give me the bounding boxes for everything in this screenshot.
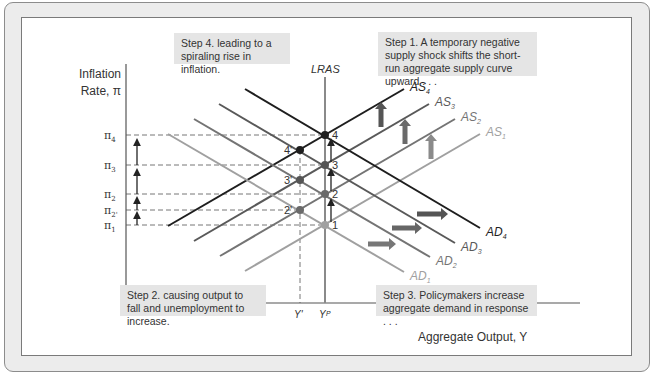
ad-label: AD1 bbox=[409, 269, 431, 284]
point-label: 2' bbox=[284, 204, 292, 216]
dashed-guide-lines bbox=[126, 135, 325, 303]
point-1 bbox=[321, 221, 329, 229]
y-tick-label: π3 bbox=[104, 159, 116, 174]
point-3' bbox=[296, 176, 304, 184]
as-label: AS1 bbox=[485, 125, 506, 140]
as-shift-arrow bbox=[399, 119, 411, 144]
y-axis-label-line2: Rate, π bbox=[73, 83, 121, 100]
ad-label: AD4 bbox=[485, 225, 507, 240]
ad-label: AD2 bbox=[435, 254, 457, 269]
ad-label: AD3 bbox=[460, 240, 482, 255]
lras-label: LRAS bbox=[311, 63, 340, 75]
y-axis-label: Inflation Rate, π bbox=[73, 66, 121, 100]
as-label: AS2 bbox=[460, 110, 481, 125]
y-tick-label: π2 bbox=[104, 188, 116, 203]
point-label: 3' bbox=[284, 174, 292, 186]
y-tick-label: π2' bbox=[104, 204, 118, 219]
point-label: 4 bbox=[332, 129, 338, 141]
step4-box: Step 4. leading to a spiraling rise in i… bbox=[174, 33, 290, 64]
as3-curve bbox=[194, 104, 429, 241]
step2-box: Step 2. causing output to fall and unemp… bbox=[120, 285, 266, 316]
step1-box: Step 1. A temporary negative supply shoc… bbox=[378, 32, 537, 76]
point-label: 4' bbox=[284, 144, 292, 156]
step3-box: Step 3. Policymakers increase aggregate … bbox=[376, 285, 537, 316]
point-label: 1 bbox=[332, 219, 338, 231]
y-tick-label: π1 bbox=[104, 219, 116, 234]
as1-curve bbox=[245, 134, 480, 271]
curve-labels: π4π3π2π2'π1Y'YᴾAS1AS2AS3AS4AD1AD2AD3AD41… bbox=[104, 80, 507, 320]
point-3 bbox=[321, 161, 329, 169]
point-label: 2 bbox=[332, 188, 338, 200]
x-tick-label: Y' bbox=[294, 309, 304, 320]
point-2' bbox=[296, 206, 304, 214]
ad4-curve bbox=[245, 89, 480, 228]
ad-shift-arrow bbox=[392, 222, 422, 234]
point-label: 3 bbox=[332, 159, 338, 171]
ad-shift-arrow bbox=[368, 238, 396, 250]
y-tick-label: π4 bbox=[104, 129, 116, 144]
as-shift-arrow bbox=[425, 134, 437, 159]
ad2-curve bbox=[194, 119, 430, 257]
point-4 bbox=[321, 131, 329, 139]
x-axis-label: Aggregate Output, Y bbox=[418, 330, 527, 344]
ad-shift-arrow bbox=[417, 208, 448, 220]
y-axis-label-line1: Inflation bbox=[73, 66, 121, 83]
point-2 bbox=[321, 190, 329, 198]
as-label: AS3 bbox=[434, 95, 455, 110]
point-4' bbox=[296, 146, 304, 154]
x-tick-label: Yᴾ bbox=[319, 309, 331, 320]
